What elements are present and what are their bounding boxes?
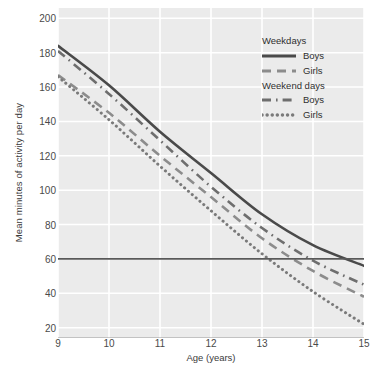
legend-group-title-weekend-days: Weekend days [262,81,325,91]
x-tick-label: 11 [140,338,180,349]
legend-swatch-solid-icon [262,51,296,61]
x-tick-label: 13 [242,338,282,349]
legend-item-weekdays-girls: Girls [262,66,325,76]
y-tick-label: 20 [20,322,56,333]
legend-item-weekdays-boys: Boys [262,51,325,61]
x-axis-label: Age (years) [58,352,364,363]
x-tick-label: 15 [344,338,371,349]
legend-group-title-weekdays: Weekdays [262,36,325,46]
y-tick-label: 40 [20,288,56,299]
x-tick-label: 10 [89,338,129,349]
y-tick-label: 60 [20,253,56,264]
y-tick-label: 140 [20,116,56,127]
legend-item-weekend-boys: Boys [262,95,325,105]
y-tick-label: 100 [20,185,56,196]
x-tick-label: 14 [293,338,333,349]
x-tick-label: 9 [38,338,78,349]
y-tick-label: 120 [20,150,56,161]
legend-swatch-dashed-icon [262,66,296,76]
legend-swatch-dashdot-icon [262,95,296,105]
legend-label-weekend-boys: Boys [303,95,324,105]
legend-label-weekend-girls: Girls [303,110,323,120]
y-tick-label: 180 [20,47,56,58]
x-tick-label: 12 [191,338,231,349]
legend-swatch-dotted-icon [262,110,296,120]
activity-by-age-chart: Mean minutes of activity per day 2040608… [0,0,371,369]
chart-legend: Weekdays Boys Girls Weekend days Boys Gi… [262,36,325,125]
y-tick-label: 200 [20,13,56,24]
legend-label-weekdays-girls: Girls [303,66,323,76]
legend-label-weekdays-boys: Boys [303,51,324,61]
y-tick-label: 160 [20,82,56,93]
y-tick-label: 80 [20,219,56,230]
legend-item-weekend-girls: Girls [262,110,325,120]
y-axis-tick-labels: 20406080100120140160180200 [12,0,56,369]
